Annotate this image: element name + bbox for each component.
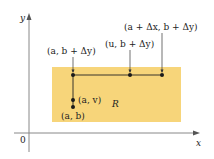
x-axis-arrow-icon [193,131,200,136]
point-a-b [71,105,75,109]
label-a-b: (a, b) [61,111,85,121]
diagram-canvas: y x 0 R (a, b + Δy) (u, b + Δy) (a + Δx,… [0,0,214,159]
point-a-b-dy [71,73,75,77]
point-u-b-dy [128,73,132,77]
y-axis-arrow-icon [27,13,32,20]
x-axis-label: x [196,138,201,148]
label-a-dx-b-dy: (a + Δx, b + Δy) [124,22,198,32]
point-a-dx-b-dy [160,73,164,77]
y-axis-label: y [19,13,26,23]
origin-label: 0 [20,135,26,145]
label-u-b-dy: (u, b + Δy) [105,39,154,49]
label-a-v: (a, v) [78,95,101,105]
region-label: R [111,99,119,109]
point-a-v [71,98,75,102]
label-a-b-dy: (a, b + Δy) [47,46,96,56]
